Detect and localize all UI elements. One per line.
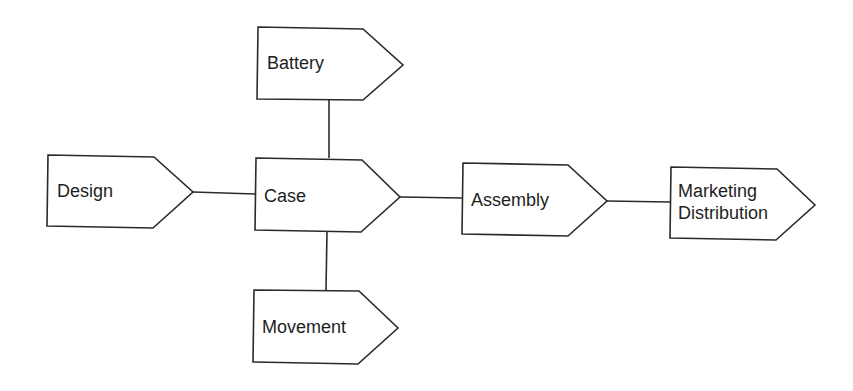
node-design-label: Design — [57, 180, 113, 202]
diagram-canvas: Battery Design Case Assembly Marketing D… — [0, 0, 853, 391]
node-assembly-label: Assembly — [471, 189, 549, 211]
node-battery-label: Battery — [267, 52, 324, 74]
edge-assembly-marketing — [607, 201, 670, 202]
edge-case-assembly — [400, 197, 462, 198]
node-marketing-label-line2: Distribution — [678, 202, 768, 224]
edge-design-case — [193, 192, 255, 194]
node-marketing-label-line1: Marketing — [678, 180, 757, 202]
node-case-label: Case — [264, 185, 306, 207]
edge-case-movement — [326, 231, 327, 290]
node-movement-label: Movement — [262, 316, 346, 338]
